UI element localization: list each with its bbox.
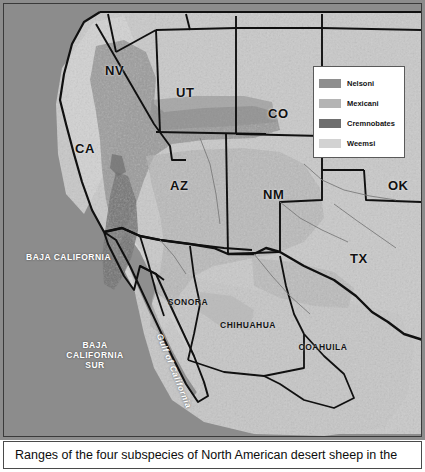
legend-label-nelsoni: Nelsoni: [347, 79, 374, 88]
color-swatch-icon: [319, 99, 341, 108]
map-legend: Nelsoni Mexicani Cremnobates Weemsi: [313, 66, 405, 158]
map-panel: NV UT CO CA AZ NM OK TX BAJA CALIFORNIA …: [0, 0, 425, 440]
legend-item-cremnobates: Cremnobates: [319, 113, 399, 133]
color-swatch-icon: [319, 139, 341, 148]
legend-item-nelsoni: Nelsoni: [319, 73, 399, 93]
legend-label-weemsi: Weemsi: [347, 139, 375, 148]
legend-label-mexicani: Mexicani: [347, 99, 379, 108]
color-swatch-icon: [319, 79, 341, 88]
legend-item-mexicani: Mexicani: [319, 93, 399, 113]
figure-caption-box: Ranges of the four subspecies of North A…: [3, 441, 422, 469]
legend-label-cremnobates: Cremnobates: [347, 119, 395, 128]
figure-container: NV UT CO CA AZ NM OK TX BAJA CALIFORNIA …: [0, 0, 425, 472]
legend-item-weemsi: Weemsi: [319, 133, 399, 153]
figure-caption-text: Ranges of the four subspecies of North A…: [15, 448, 397, 462]
color-swatch-icon: [319, 119, 341, 128]
